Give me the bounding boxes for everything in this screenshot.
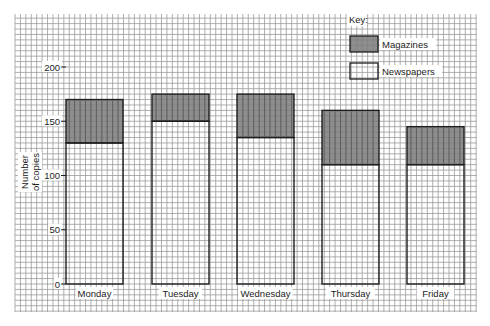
x-tick-label-tuesday: Tuesday [162, 288, 198, 299]
x-tick-label-monday: Monday [78, 288, 112, 299]
legend-swatch-magazines [350, 36, 378, 52]
x-tick-label-thursday: Thursday [331, 288, 371, 299]
legend-label-newspapers: Newspapers [382, 66, 435, 77]
y-tick-label: 200 [44, 62, 60, 73]
legend-label-magazines: Magazines [382, 39, 428, 50]
y-axis-title-line2: of copies [30, 153, 41, 191]
x-tick-label-friday: Friday [422, 288, 449, 299]
magazines-segment [237, 94, 294, 137]
y-axis-title-line1: Number [19, 155, 30, 189]
magazines-segment [152, 94, 209, 121]
y-tick-label: 150 [44, 116, 60, 127]
y-tick-label: 0 [55, 279, 60, 290]
stacked-bar-chart: 050100150200 MondayTuesdayWednesdayThurs… [0, 0, 490, 326]
magazines-segment [322, 110, 379, 164]
y-tick-label: 50 [49, 224, 60, 235]
legend-title: Key: [349, 14, 368, 25]
y-tick-label: 100 [44, 170, 60, 181]
magazines-segment [407, 127, 464, 165]
x-tick-label-wednesday: Wednesday [241, 288, 291, 299]
y-axis-title: Numberof copies [18, 152, 42, 192]
